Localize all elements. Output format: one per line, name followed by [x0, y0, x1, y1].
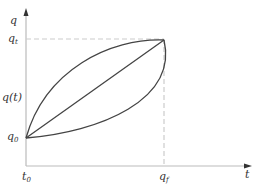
q-of-t-label: q(t) — [2, 91, 22, 104]
q0-label: q0 — [7, 130, 19, 144]
trajectory-diagram: q t qt q(t) q0 t0 qf — [0, 0, 263, 192]
qf-label: qf — [159, 170, 170, 184]
x-axis-label: t — [245, 168, 250, 181]
t0-label: t0 — [22, 170, 31, 184]
qt-label: qt — [8, 32, 18, 46]
y-axis-label: q — [10, 14, 17, 27]
y-axis-arrow-icon — [24, 8, 29, 16]
